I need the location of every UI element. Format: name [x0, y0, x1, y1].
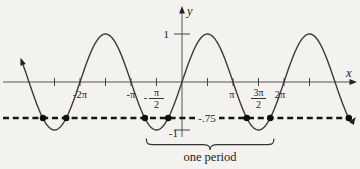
x-tick-label: π: [229, 89, 235, 100]
one-period-label: one period: [183, 150, 237, 164]
solution-dot: [40, 115, 46, 121]
label-layer: y x 1 -1 -.75 one period: [164, 4, 353, 164]
x-tick-label-numerator: π: [154, 87, 159, 98]
sine-graph-figure: -2π-π-π2π3π22π y x 1 -1 -.75 one period: [0, 0, 360, 169]
y-axis-title: y: [185, 4, 193, 18]
figure-canvas: -2π-π-π2π3π22π y x 1 -1 -.75 one period: [0, 0, 360, 169]
solution-dot: [267, 115, 273, 121]
x-tick-label-numerator: 3π: [253, 87, 263, 98]
chart-generated-layer: -2π-π-π2π3π22π: [3, 6, 357, 150]
solution-dot: [142, 115, 148, 121]
y-tick-label-neg1: -1: [169, 127, 178, 139]
period-brace: [146, 139, 274, 151]
solution-dot: [346, 115, 352, 121]
x-tick-label-denominator: 2: [154, 99, 159, 110]
curve-arrow-start: [20, 58, 25, 66]
x-axis-title: x: [345, 66, 352, 80]
x-tick-label-minus: -: [144, 92, 148, 103]
solution-dot: [244, 115, 250, 121]
solution-dot: [63, 115, 69, 121]
hline-value-label: -.75: [198, 112, 216, 124]
y-tick-label-1: 1: [164, 28, 170, 40]
x-tick-label-denominator: 2: [256, 99, 261, 110]
y-axis-arrow: [179, 6, 185, 14]
solution-dot: [165, 115, 171, 121]
